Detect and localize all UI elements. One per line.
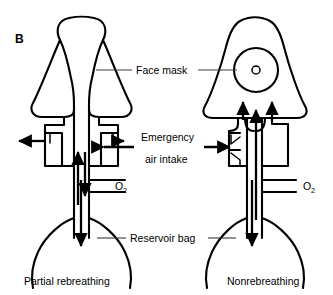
panel-label: B (15, 32, 24, 46)
label-oxygen-left-subscript: 2 (123, 186, 127, 195)
caption-partial-rebreathing: Partial rebreathing (24, 275, 110, 287)
label-emergency-line2: air intake (145, 153, 188, 165)
caption-nonrebreathing: Nonrebreathing (227, 275, 300, 287)
label-face-mask: Face mask (136, 64, 188, 76)
figure-container: B Face mask Emergency air intake O 2 O 2… (0, 0, 333, 295)
label-oxygen-right-subscript: 2 (311, 186, 315, 195)
label-reservoir-bag: Reservoir bag (130, 232, 196, 244)
label-oxygen-left: O (115, 180, 123, 192)
label-emergency-line1: Emergency (141, 131, 195, 143)
breathing-apparatus-diagram: B Face mask Emergency air intake O 2 O 2… (0, 0, 333, 295)
label-oxygen-right: O (303, 180, 311, 192)
